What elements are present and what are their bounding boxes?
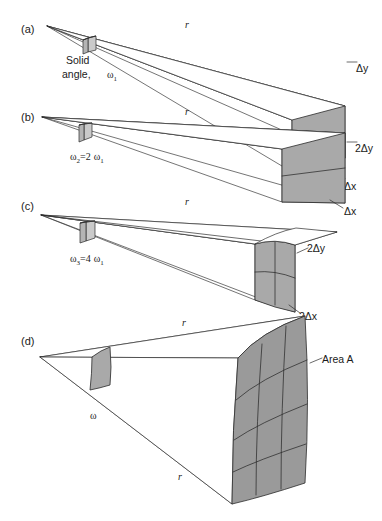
panel-c-label: (c) — [21, 200, 34, 212]
panel-d-side-face — [40, 357, 238, 504]
panel-d-label: (d) — [21, 335, 34, 347]
panel-b-radius-label: r — [185, 106, 189, 117]
panel-d-area-leader — [310, 358, 322, 363]
panel-c-unit-block — [80, 221, 95, 243]
panel-c-relation-subscript: 1 — [100, 259, 104, 267]
panel-c-omega-relation: ω3=4ω1 — [70, 253, 104, 267]
panel-a-caption-line2: angle, — [62, 68, 91, 80]
figure-canvas: (a) r Solid an — [0, 0, 382, 521]
panel-c-height-label: 2Δy — [307, 242, 326, 254]
panel-d-omega: ω — [90, 410, 97, 421]
panel-b-label: (b) — [21, 111, 34, 123]
panel-d-radius-label-top: r — [182, 317, 186, 328]
panel-b-unit-block — [79, 123, 92, 142]
panel-b-omega-relation: ω2=2ω1 — [70, 151, 104, 165]
panel-a-omega: ω1 — [107, 69, 118, 83]
panel-b-width-label: Δx — [344, 205, 357, 217]
panel-c: (c) r ω3=4ω1 — [21, 196, 337, 322]
panel-b-height-label: 2Δy — [355, 142, 374, 154]
panel-a-radius-label: r — [185, 19, 189, 30]
panel-a-label: (a) — [21, 23, 34, 35]
panel-d: (d) r r ω — [21, 316, 354, 504]
panel-b-relation: =2 — [80, 151, 91, 162]
panel-d-area-label: Area A — [322, 353, 354, 365]
panel-a-height-label: Δy — [356, 62, 369, 74]
panel-a-omega-subscript: 1 — [114, 75, 118, 83]
panel-c-radius-label: r — [185, 196, 189, 207]
panel-d-radius-label-bottom: r — [178, 471, 182, 482]
panel-c-relation: =4 — [80, 253, 91, 264]
solid-angle-figure: (a) r Solid an — [0, 0, 382, 521]
panel-a-width-label: Δx — [344, 180, 357, 192]
panel-a-caption-line1: Solid — [66, 54, 90, 66]
panel-b-relation-subscript: 1 — [100, 157, 104, 165]
